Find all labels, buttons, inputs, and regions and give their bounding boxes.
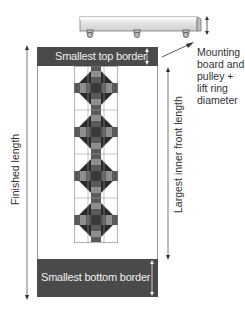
inner-front-length-label: Largest inner front length <box>172 96 184 213</box>
mounting-label: Mounting board and pulley + lift ring di… <box>197 46 244 106</box>
bottom-border-arrow-icon <box>148 260 156 296</box>
quilt-column <box>74 66 118 243</box>
mounting-label-line: Mounting <box>197 46 244 58</box>
top-border-label: Smallest top border <box>55 50 147 62</box>
finished-length-arrow-icon <box>22 44 32 304</box>
mounting-label-line: lift ring <box>197 82 244 94</box>
finished-length-label: Finished length <box>9 134 21 205</box>
bottom-border-band: Smallest bottom border <box>37 259 158 297</box>
top-border-band: Smallest top border <box>37 47 158 66</box>
mounting-label-line: pulley + <box>197 70 244 82</box>
mounting-label-line: board and <box>197 58 244 70</box>
bottom-border-label: Smallest bottom border <box>41 271 150 283</box>
mounting-label-line: diameter <box>197 94 244 106</box>
quilt-pattern <box>74 66 118 243</box>
top-border-arrow-icon <box>143 48 151 65</box>
